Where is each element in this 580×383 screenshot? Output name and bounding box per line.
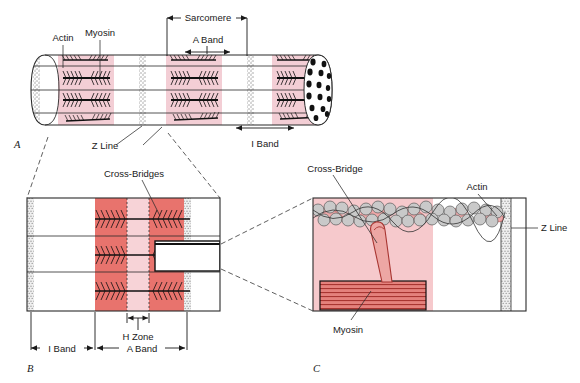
panel-a-contents — [31, 50, 332, 132]
panel-b: Cross-Bridges H Zone I Band A B — [27, 168, 220, 374]
sarcomere-label: Sarcomere — [185, 12, 231, 23]
cross-bridge-label-c: Cross-Bridge — [307, 163, 362, 174]
expansion-lines-a-to-b — [27, 133, 220, 198]
b-inset-marker — [155, 241, 220, 271]
dimension-h-zone: H Zone — [122, 313, 153, 342]
cross-section-face — [304, 55, 332, 125]
panel-b-label: B — [27, 363, 34, 374]
myosin-label-c: Myosin — [333, 324, 363, 335]
a-band-label-b: A Band — [127, 343, 158, 354]
actin-label-a: Actin — [52, 32, 73, 43]
dimension-i-a-bands-b: I Band A Band — [31, 312, 187, 354]
figure-canvas: Sarcomere A Band I Band Actin Myosin — [0, 0, 580, 383]
panel-c-label: C — [313, 363, 321, 374]
z-line-label-c: Z Line — [541, 222, 567, 233]
expansion-lines-b-to-c — [221, 198, 313, 311]
c-actin-beads-lower — [318, 213, 498, 227]
z-line-callout-a: Z Line — [92, 126, 162, 151]
dimension-a-band: A Band — [185, 33, 230, 55]
cross-bridges-label-b: Cross-Bridges — [104, 168, 164, 179]
myosin-label-a: Myosin — [85, 27, 115, 38]
i-band-label: I Band — [251, 138, 278, 149]
z-line-label-a: Z Line — [92, 140, 118, 151]
panel-c: Cross-Bridge Actin Myosin Z Line C — [307, 163, 567, 374]
b-z-line-left — [27, 198, 34, 311]
a-band-label: A Band — [193, 34, 224, 45]
dimension-i-band: I Band — [236, 125, 294, 149]
panel-a-label: A — [13, 139, 21, 150]
panel-a: Sarcomere A Band I Band Actin Myosin — [13, 10, 332, 151]
c-myosin-filament — [320, 281, 426, 310]
muscle-sarcomere-figure: Sarcomere A Band I Band Actin Myosin — [0, 0, 580, 383]
actin-label-c: Actin — [466, 181, 487, 192]
i-band-label-b: I Band — [48, 343, 75, 354]
h-zone-label: H Zone — [122, 331, 153, 342]
